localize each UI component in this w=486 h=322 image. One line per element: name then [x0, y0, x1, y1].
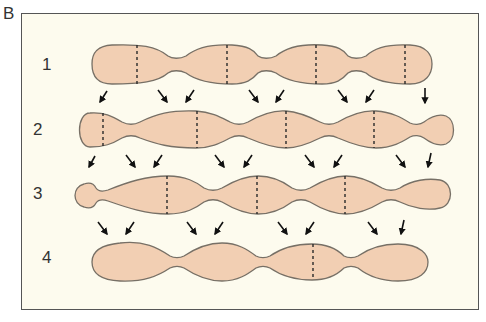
chain-row-1 — [92, 45, 432, 84]
arrows-row-2-to-3 — [89, 153, 431, 167]
chain-row-2 — [80, 111, 454, 148]
arrows-row-3-to-4 — [98, 220, 404, 234]
chain-row-4 — [92, 242, 428, 281]
chain-row-3 — [75, 176, 451, 214]
segmentation-diagram — [0, 0, 486, 322]
arrows-row-1-to-2 — [100, 88, 425, 103]
